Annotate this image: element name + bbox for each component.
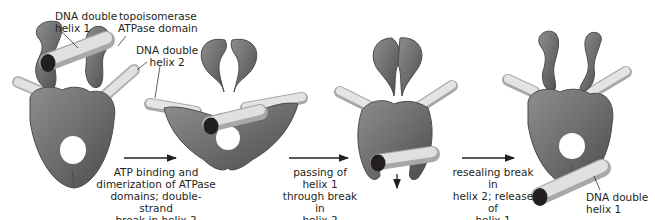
step-3-caption: resealing break in helix 2; release of h… [452, 166, 534, 220]
label-dna-helix-1-bottom: DNA double helix 1 [586, 191, 648, 215]
label-dna-helix-2: DNA double helix 2 [136, 44, 198, 68]
step-2-caption: passing of helix 1 through break in heli… [280, 166, 360, 220]
label-atpase-domain: topoisomerase ATPase domain [118, 10, 198, 34]
label-dna-helix-1-top: DNA double helix 1 [55, 10, 117, 34]
stage-3-enzyme [340, 38, 452, 180]
step-1-caption: ATP binding and dimerization of ATPase d… [96, 166, 216, 220]
